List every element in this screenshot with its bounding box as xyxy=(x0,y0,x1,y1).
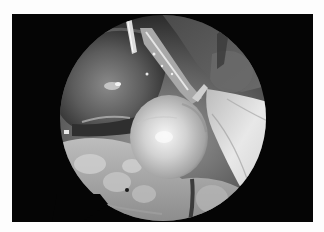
scope-edge-notch xyxy=(52,194,108,222)
dark-spot xyxy=(125,188,129,192)
scope-field xyxy=(12,14,313,222)
endoscope-frame xyxy=(12,14,313,222)
laparoscopic-image xyxy=(12,14,313,222)
